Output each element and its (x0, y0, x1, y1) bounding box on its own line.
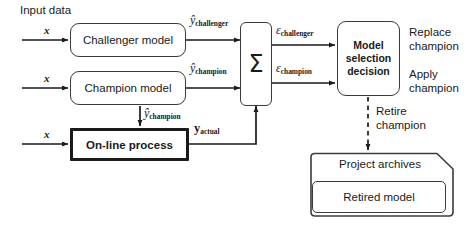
y-actual-subscript: actual (200, 127, 219, 136)
input-data-caption: Input data (20, 4, 71, 18)
summation-node[interactable]: Σ (240, 22, 272, 106)
decision-line-3: decision (346, 65, 392, 78)
challenger-model-label: Challenger model (83, 34, 173, 47)
y-hat-champion-subscript: champion (195, 67, 226, 76)
epsilon-challenger-subscript: challenger (281, 29, 314, 38)
sigma-symbol: Σ (248, 50, 263, 78)
decision-line-1: Model (346, 39, 392, 52)
outcome-replace-line-1: Replace (409, 26, 459, 40)
retired-model-label: Retired model (343, 191, 415, 203)
model-selection-decision-box[interactable]: Model selection decision (337, 21, 400, 96)
signal-y-actual: yactual (194, 121, 220, 136)
y-hat-challenger-subscript: challenger (195, 19, 228, 28)
online-process-box[interactable]: On-line process (70, 128, 189, 161)
signal-epsilon-champion: εchampion (276, 61, 312, 76)
diagram-canvas: Input data x x x Challenger model Champi… (0, 0, 476, 226)
input-label-challenger: x (44, 24, 50, 36)
online-process-label: On-line process (86, 139, 173, 151)
outcome-replace-line-2: champion (409, 40, 459, 54)
challenger-model-box[interactable]: Challenger model (70, 23, 186, 57)
project-archives-label: Project archives (305, 158, 455, 170)
decision-line-2: selection (346, 52, 392, 65)
y-hat-champion-feedback-subscript: champion (149, 112, 180, 121)
retired-model-box[interactable]: Retired model (312, 181, 446, 213)
signal-epsilon-challenger: εchallenger (276, 23, 314, 38)
outcome-apply-line-1: Apply (409, 68, 459, 82)
outcome-apply-champion: Apply champion (409, 68, 459, 96)
outcome-replace-champion: Replace champion (409, 26, 459, 54)
retire-line-1: Retire (376, 105, 426, 119)
signal-y-hat-champion-feedback: ŷchampion (144, 106, 181, 121)
signal-y-hat-challenger: ŷchallenger (190, 13, 228, 28)
retire-line-2: champion (376, 119, 426, 133)
project-archives-container[interactable]: Project archives Retired model (305, 152, 455, 218)
signal-y-hat-champion: ŷchampion (190, 61, 227, 76)
epsilon-champion-subscript: champion (281, 67, 312, 76)
input-label-champion: x (44, 72, 50, 84)
retire-champion-label: Retire champion (376, 105, 426, 133)
champion-model-label: Champion model (85, 82, 172, 95)
champion-model-box[interactable]: Champion model (70, 71, 186, 105)
outcome-apply-line-2: champion (409, 82, 459, 96)
input-label-online-process: x (44, 128, 50, 140)
